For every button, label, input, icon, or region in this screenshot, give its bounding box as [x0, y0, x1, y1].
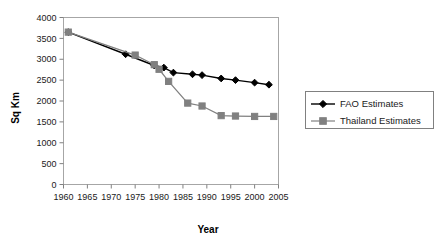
x-tick-label: 1985 — [173, 192, 193, 202]
chart-legend: FAO EstimatesThailand Estimates — [306, 92, 434, 129]
legend-square-marker — [320, 118, 327, 125]
y-axis-tick-labels: 05001000150020002500300035004000 — [36, 13, 56, 190]
diamond-marker — [170, 69, 177, 76]
data-series-layer — [65, 29, 277, 120]
series-line — [68, 32, 269, 85]
y-tick-label: 1500 — [36, 117, 56, 127]
diamond-marker — [189, 71, 196, 78]
square-marker — [252, 113, 258, 119]
x-axis-title: Year — [197, 224, 218, 235]
diamond-marker — [251, 79, 258, 86]
x-tick-label: 1970 — [101, 192, 121, 202]
diamond-marker — [232, 77, 239, 84]
x-tick-label: 1965 — [77, 192, 97, 202]
square-marker — [218, 113, 224, 119]
line-chart: 05001000150020002500300035004000 1960196… — [0, 0, 441, 244]
y-tick-label: 3500 — [36, 34, 56, 44]
square-marker — [185, 100, 191, 106]
square-marker — [132, 52, 138, 58]
y-tick-label: 1000 — [36, 138, 56, 148]
y-axis-ticks — [60, 18, 64, 185]
legend-label: FAO Estimates — [340, 98, 404, 109]
y-tick-label: 2000 — [36, 96, 56, 106]
chart-container: 05001000150020002500300035004000 1960196… — [0, 0, 441, 244]
x-tick-label: 1960 — [53, 192, 73, 202]
x-axis-tick-labels: 1960196519701975198019851990199520002005 — [53, 192, 288, 202]
square-marker — [65, 29, 71, 35]
square-marker — [166, 78, 172, 84]
x-axis-ticks — [64, 185, 279, 189]
y-tick-label: 0 — [51, 180, 56, 190]
y-tick-label: 500 — [41, 159, 56, 169]
y-tick-label: 4000 — [36, 13, 56, 23]
square-marker — [271, 113, 277, 119]
square-marker — [199, 103, 205, 109]
legend-label: Thailand Estimates — [340, 115, 421, 126]
x-tick-label: 1975 — [125, 192, 145, 202]
x-tick-label: 2005 — [268, 192, 288, 202]
diamond-marker — [266, 81, 273, 88]
square-marker — [156, 66, 162, 72]
y-tick-label: 3000 — [36, 54, 56, 64]
x-tick-label: 2000 — [245, 192, 265, 202]
diamond-marker — [199, 72, 206, 79]
diamond-marker — [218, 75, 225, 82]
y-tick-label: 2500 — [36, 75, 56, 85]
x-tick-label: 1995 — [221, 192, 241, 202]
y-axis-title: Sq Km — [10, 92, 21, 124]
x-tick-label: 1980 — [149, 192, 169, 202]
square-marker — [232, 113, 238, 119]
x-tick-label: 1990 — [197, 192, 217, 202]
